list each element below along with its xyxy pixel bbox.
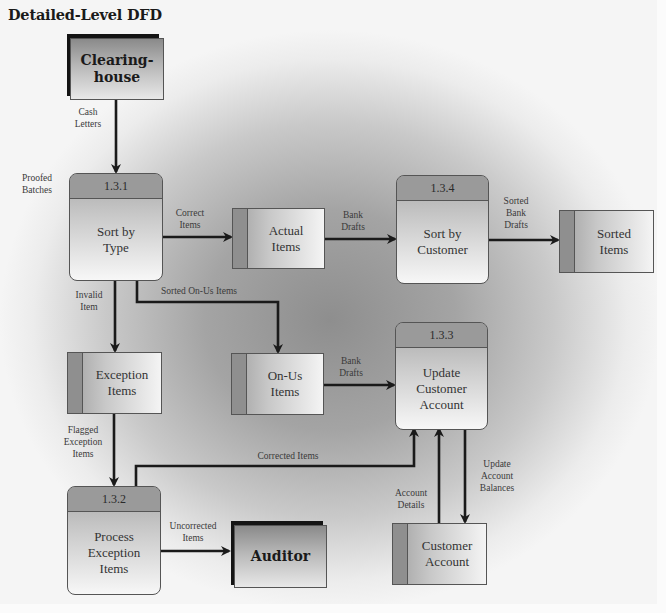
process-1-3-4[interactable]: 1.3.4 Sort by Customer [396,175,489,284]
label-correct-items: Correct Items [165,207,215,231]
process-label: Sort by Customer [397,201,488,283]
store-exception-items[interactable]: Exception Items [67,352,162,414]
process-number: 1.3.3 [396,323,487,348]
process-label: Update Customer Account [396,348,487,429]
process-number: 1.3.1 [70,174,162,199]
store-tab [68,353,83,413]
label-bank-drafts-1: Bank Drafts [331,209,375,233]
store-label: On-Us Items [247,354,323,414]
label-sorted-on-us-items: Sorted On-Us Items [140,285,258,297]
label-corrected-items: Corrected Items [238,450,338,462]
process-1-3-1[interactable]: 1.3.1 Sort by Type [69,173,163,281]
store-tab [393,524,408,584]
entity-clearinghouse-label: Clearing- house [70,38,164,100]
store-actual-items[interactable]: Actual Items [232,208,325,269]
store-on-us-items[interactable]: On-Us Items [231,353,324,415]
store-label: Sorted Items [575,211,653,272]
store-label: Customer Account [408,524,486,584]
label-flagged-exception-items: Flagged Exception Items [56,424,110,460]
process-number: 1.3.2 [68,487,160,512]
store-customer-account[interactable]: Customer Account [392,523,487,585]
store-sorted-items[interactable]: Sorted Items [559,210,654,273]
label-uncorrected-items: Uncorrected Items [158,520,228,544]
label-cash-letters: Cash Letters [66,106,110,130]
store-tab [232,354,247,414]
process-1-3-3[interactable]: 1.3.3 Update Customer Account [395,322,488,430]
process-1-3-2[interactable]: 1.3.2 Process Exception Items [67,486,161,595]
label-update-account-balances: Update Account Balances [468,458,526,494]
label-sorted-bank-drafts: Sorted Bank Drafts [490,195,542,231]
store-label: Exception Items [83,353,161,413]
process-number: 1.3.4 [397,176,488,201]
process-label: Sort by Type [70,199,162,280]
label-invalid-item: Invalid Item [66,289,112,313]
label-bank-drafts-2: Bank Drafts [329,355,373,379]
store-tab [560,211,575,272]
store-label: Actual Items [248,209,324,268]
process-label: Process Exception Items [68,512,160,594]
label-account-details: Account Details [384,487,438,511]
store-tab [233,209,248,268]
label-proofed-batches: Proofed Batches [12,172,62,196]
entity-auditor-label: Auditor [234,525,327,588]
